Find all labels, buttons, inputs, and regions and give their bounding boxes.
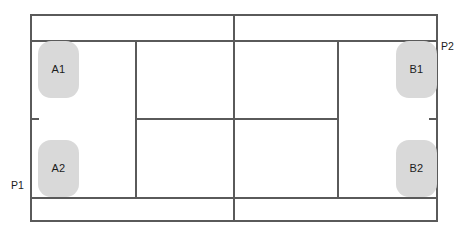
player-marker-a1[interactable]: A1 bbox=[38, 41, 79, 98]
center-service-line bbox=[135, 118, 339, 120]
endpoint-label-p1: P1 bbox=[11, 180, 24, 191]
player-label-b1: B1 bbox=[409, 64, 423, 75]
endpoint-label-p2: P2 bbox=[441, 41, 454, 52]
tennis-court-diagram: A1 A2 B1 B2 P1 P2 bbox=[0, 0, 469, 235]
right-baseline-center-mark bbox=[429, 118, 438, 120]
player-marker-a2[interactable]: A2 bbox=[38, 140, 79, 197]
player-marker-b2[interactable]: B2 bbox=[396, 140, 437, 197]
left-baseline-center-mark bbox=[30, 118, 39, 120]
player-label-a2: A2 bbox=[51, 163, 65, 174]
player-label-b2: B2 bbox=[409, 163, 423, 174]
player-marker-b1[interactable]: B1 bbox=[396, 41, 437, 98]
player-label-a1: A1 bbox=[51, 64, 65, 75]
